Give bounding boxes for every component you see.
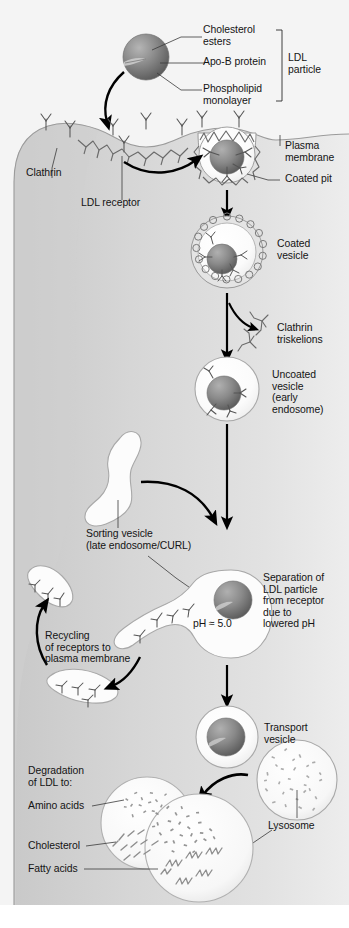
uncoated-vesicle bbox=[195, 357, 259, 421]
diagram-stage: Cholesterol esters Apo-B protein Phospho… bbox=[0, 0, 349, 905]
label-cholesterol: Cholesterol bbox=[28, 840, 80, 852]
label-ph-value: pH ≈ 5.0 bbox=[193, 618, 232, 630]
label-ldl-receptor: LDL receptor bbox=[81, 197, 140, 209]
label-lysosome: Lysosome bbox=[268, 820, 315, 832]
transport-vesicle bbox=[196, 706, 258, 768]
label-plasma-membrane: Plasma membrane bbox=[285, 140, 334, 163]
label-fatty-acids: Fatty acids bbox=[28, 863, 78, 875]
label-ldl-particle: LDL particle bbox=[288, 52, 321, 75]
label-recycling: Recycling of receptors to plasma membran… bbox=[45, 630, 130, 665]
ldl-particle-free bbox=[123, 34, 169, 80]
label-clathrin-triskelions: Clathrin triskelions bbox=[277, 322, 323, 345]
ldl-endocytosis-figure: Cholesterol esters Apo-B protein Phospho… bbox=[0, 0, 349, 928]
label-coated-vesicle: Coated vesicle bbox=[277, 238, 310, 261]
label-sorting-vesicle: Sorting vesicle (late endosome/CURL) bbox=[86, 528, 191, 551]
label-phospholipid-monolayer: Phospholipid monolayer bbox=[203, 83, 262, 106]
label-uncoated-vesicle: Uncoated vesicle (early endosome) bbox=[272, 369, 324, 415]
label-apo-b-protein: Apo-B protein bbox=[203, 56, 266, 68]
degradation-endosome-right bbox=[145, 794, 253, 902]
label-clathrin: Clathrin bbox=[26, 167, 61, 179]
label-degradation: Degradation of LDL to: bbox=[28, 765, 84, 788]
label-amino-acids: Amino acids bbox=[28, 800, 84, 812]
label-cholesterol-esters: Cholesterol esters bbox=[203, 24, 255, 47]
label-transport-vesicle: Transport vesicle bbox=[264, 722, 308, 745]
label-separation: Separation of LDL particle from receptor… bbox=[263, 572, 324, 630]
bottom-margin bbox=[0, 905, 349, 928]
label-coated-pit: Coated pit bbox=[285, 173, 332, 185]
